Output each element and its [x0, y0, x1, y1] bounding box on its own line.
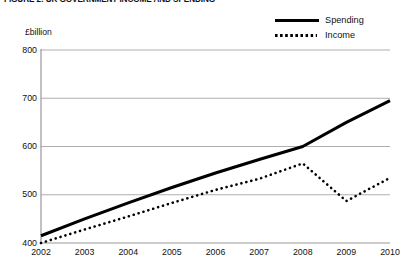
x-axis-tick: 2003 — [63, 247, 107, 258]
legend-item-spending: Spending — [273, 12, 391, 27]
x-axis-tick: 2004 — [106, 247, 150, 258]
plot-area — [41, 50, 390, 243]
x-axis-tick: 2008 — [281, 247, 325, 258]
chart-canvas — [41, 50, 390, 243]
x-axis-tick: 2007 — [237, 247, 281, 258]
y-axis-tick: 800 — [3, 46, 37, 55]
series-line-spending — [41, 101, 390, 236]
x-axis-tick: 2009 — [324, 247, 368, 258]
solid-line-icon — [273, 15, 319, 25]
x-axis-tick-labels: 200220032004200520062007200820092010 — [41, 247, 390, 261]
y-axis-tick: 700 — [3, 94, 37, 103]
y-axis-tick: 500 — [3, 190, 37, 199]
y-axis-unit-label: £billion — [25, 27, 52, 37]
x-axis-tick: 2005 — [150, 247, 194, 258]
y-axis-tick: 600 — [3, 142, 37, 151]
dotted-line-icon — [273, 30, 319, 40]
legend-label-spending: Spending — [325, 15, 364, 25]
legend-label-income: Income — [325, 30, 355, 40]
legend-item-income: Income — [273, 27, 391, 42]
series-line-income — [41, 163, 390, 243]
x-axis-tick: 2002 — [19, 247, 63, 258]
page-title: FIGURE 2: UK GOVERNMENT INCOME AND SPEND… — [4, 0, 215, 5]
x-axis-tick: 2006 — [194, 247, 238, 258]
chart-legend: Spending Income — [273, 12, 391, 42]
y-axis-tick-labels: 400500600700800 — [0, 50, 37, 243]
x-axis-tick: 2010 — [368, 247, 405, 258]
